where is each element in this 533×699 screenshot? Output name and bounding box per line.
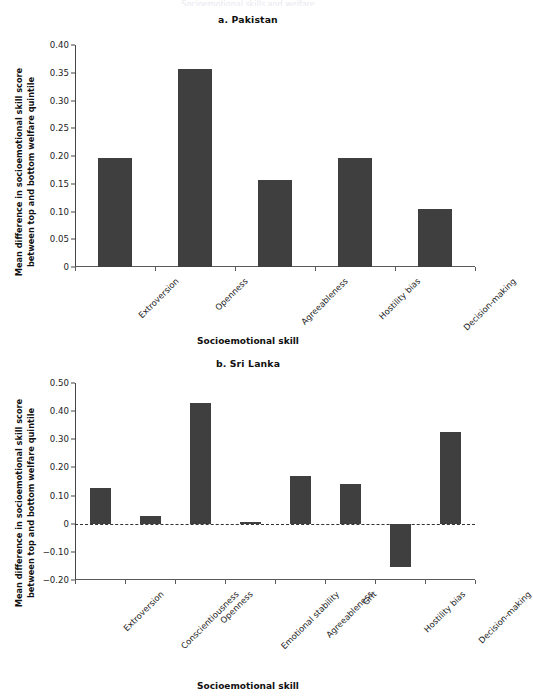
- x-category-label: Agreeableness: [299, 276, 350, 327]
- panel-b-y-axis-label-line2: between top and bottom welfare quintile: [26, 383, 38, 623]
- x-tick-mark: [155, 267, 156, 271]
- panel-a-y-axis-label: Mean difference in socioemotional skill …: [14, 52, 37, 292]
- x-category-label: Decision-making: [461, 276, 517, 332]
- x-category-label: Openness: [213, 276, 249, 312]
- panel-a-plot-area: 00.050.100.150.200.250.300.350.40: [75, 45, 475, 267]
- y-tick-label: 0.35: [50, 68, 75, 78]
- x-tick-mark: [125, 580, 126, 584]
- bar: [90, 488, 111, 524]
- y-tick-label: 0.25: [50, 123, 75, 133]
- y-tick-label: 0.10: [50, 491, 75, 501]
- x-tick-mark: [275, 580, 276, 584]
- y-tick-label: 0.20: [50, 151, 75, 161]
- x-category-label: Conscientiousness: [179, 589, 241, 651]
- x-tick-mark: [475, 267, 476, 271]
- panel-b-x-axis-title: Socioemotional skill: [0, 681, 496, 691]
- panel-b-plot-area: −0.20−0.1000.100.200.300.400.50: [75, 383, 475, 580]
- x-tick-mark: [235, 267, 236, 271]
- bar: [290, 476, 311, 523]
- x-category-label: Hostility bias: [422, 589, 467, 634]
- x-tick-mark: [225, 580, 226, 584]
- y-tick-label: 0.20: [50, 462, 75, 472]
- panel-a-x-axis-title: Socioemotional skill: [0, 336, 496, 346]
- bar: [140, 516, 161, 524]
- bar: [338, 158, 372, 267]
- x-tick-mark: [395, 267, 396, 271]
- panel-b-title: b. Sri Lanka: [0, 358, 496, 369]
- chart-panel-sri-lanka: b. Sri Lanka Mean difference in socioemo…: [0, 355, 496, 699]
- bar: [258, 180, 292, 267]
- x-category-label: Extroversion: [136, 276, 180, 320]
- y-tick-label: 0.50: [50, 378, 75, 388]
- bar: [178, 69, 212, 267]
- y-tick-label: 0.30: [50, 96, 75, 106]
- y-tick-label: −0.20: [43, 575, 75, 585]
- bar: [390, 524, 411, 568]
- x-tick-mark: [75, 267, 76, 271]
- x-category-label: Extroversion: [121, 589, 165, 633]
- panel-a-y-axis-label-line1: Mean difference in socioemotional skill …: [14, 52, 26, 292]
- y-tick-label: 0.10: [50, 207, 75, 217]
- bar: [418, 209, 452, 267]
- x-tick-mark: [425, 580, 426, 584]
- x-tick-mark: [325, 580, 326, 584]
- y-tick-label: −0.10: [43, 547, 75, 557]
- zero-reference-line: [75, 524, 475, 525]
- y-tick-label: 0.40: [50, 40, 75, 50]
- panel-a-y-axis-line: [75, 45, 76, 267]
- panel-a-y-axis-label-line2: between top and bottom welfare quintile: [26, 52, 38, 292]
- y-tick-label: 0.40: [50, 406, 75, 416]
- panel-b-y-axis-label-line1: Mean difference in socioemotional skill …: [14, 383, 26, 623]
- panel-a-title: a. Pakistan: [0, 14, 496, 25]
- x-category-label: Emotional stability: [279, 589, 341, 651]
- y-tick-label: 0.05: [50, 234, 75, 244]
- x-category-label: Decision-making: [476, 589, 532, 645]
- y-tick-label: 0.30: [50, 434, 75, 444]
- chart-panel-pakistan: a. Pakistan Mean difference in socioemot…: [0, 0, 496, 355]
- x-tick-mark: [315, 267, 316, 271]
- y-tick-label: 0.15: [50, 179, 75, 189]
- bar: [340, 484, 361, 524]
- x-category-label: Hostility bias: [377, 276, 422, 321]
- y-tick-label: 0: [64, 519, 75, 529]
- x-tick-mark: [475, 580, 476, 584]
- bar: [190, 403, 211, 524]
- panel-b-y-axis-label: Mean difference in socioemotional skill …: [14, 383, 37, 623]
- bar: [98, 158, 132, 267]
- x-tick-mark: [375, 580, 376, 584]
- bar: [240, 522, 261, 524]
- x-tick-mark: [175, 580, 176, 584]
- y-tick-label: 0: [64, 262, 75, 272]
- x-tick-mark: [75, 580, 76, 584]
- bar: [440, 432, 461, 523]
- panel-b-y-axis-line: [75, 383, 76, 580]
